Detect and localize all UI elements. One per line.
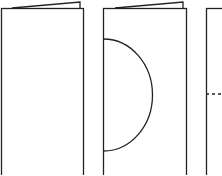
panel-step-3 <box>206 8 222 175</box>
card-front <box>2 9 84 176</box>
panel-step-2 <box>104 2 187 175</box>
card-back-flap <box>115 2 183 8</box>
folding-diagram <box>0 0 222 175</box>
card-back-flap <box>12 2 80 8</box>
panel-step-1 <box>2 2 84 175</box>
semicircle-cut-line <box>104 39 153 151</box>
card-front <box>104 9 187 176</box>
